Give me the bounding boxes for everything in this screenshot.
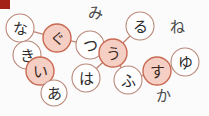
edge-na-gu	[33, 31, 45, 34]
node-label-yu: ゆ	[178, 54, 193, 72]
edge-u-ru	[122, 35, 131, 44]
node-label-ru: る	[133, 18, 148, 36]
node-label-u: う	[106, 45, 121, 63]
free-label-mi[interactable]: み	[88, 4, 103, 22]
node-yu[interactable]: ゆ	[171, 48, 199, 76]
hiragana-node-graph: なきぐいあつはうるふすゆ みねか	[0, 0, 209, 116]
node-label-fu: ふ	[121, 72, 136, 90]
free-label-ka[interactable]: か	[156, 87, 171, 105]
node-label-gu: ぐ	[50, 30, 65, 48]
node-label-su: す	[150, 63, 165, 81]
node-su[interactable]: す	[143, 57, 171, 85]
node-fu[interactable]: ふ	[114, 66, 142, 94]
node-a[interactable]: あ	[41, 80, 67, 106]
node-ha[interactable]: は	[72, 64, 100, 92]
node-na[interactable]: な	[6, 14, 34, 42]
node-label-na: な	[13, 20, 28, 38]
node-label-a: あ	[47, 85, 62, 103]
node-label-ha: は	[79, 70, 94, 88]
node-gu[interactable]: ぐ	[43, 24, 71, 52]
puzzle-canvas: なきぐいあつはうるふすゆ みねか	[0, 0, 209, 116]
node-label-tsu: つ	[83, 37, 98, 55]
node-u[interactable]: う	[99, 39, 127, 67]
node-ru[interactable]: る	[126, 12, 154, 40]
free-label-ne[interactable]: ね	[170, 18, 185, 36]
node-label-i: い	[33, 63, 48, 81]
